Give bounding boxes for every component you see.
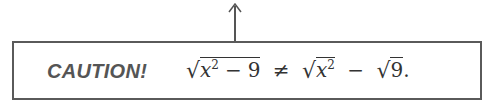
period: .: [403, 58, 409, 82]
minus-sign: −: [347, 58, 364, 82]
radical-lhs: √x2−9: [186, 57, 260, 83]
not-equal-sign: ≠: [273, 58, 290, 82]
caution-label: CAUTION!: [47, 60, 147, 83]
radical-rhs-second: √9: [376, 57, 403, 83]
radical-rhs-first: √x2: [302, 57, 335, 83]
math-expression: √x2−9 ≠ √x2 − √9 .: [186, 57, 410, 83]
arrow-up-icon: [228, 3, 242, 13]
